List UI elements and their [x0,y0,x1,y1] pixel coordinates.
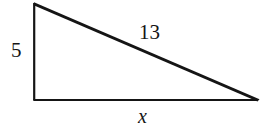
triangle-drawing [0,0,270,133]
label-horizontal-leg: x [138,106,147,126]
label-hypotenuse: 13 [139,22,160,43]
triangle-outline [33,2,259,101]
hypotenuse-line [34,2,260,101]
label-vertical-leg: 5 [11,40,22,61]
triangle-figure: 5 13 x [0,0,270,133]
